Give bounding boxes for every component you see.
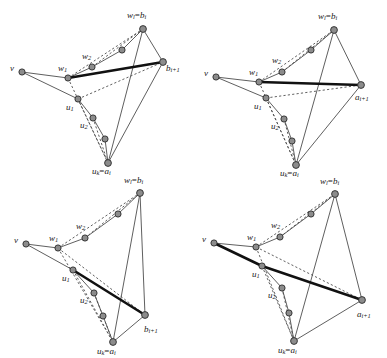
label-uk: uk=ai [97, 347, 116, 356]
label-u1: u1 [252, 270, 260, 279]
label-w2: w2 [272, 56, 281, 65]
label-v: v [10, 64, 14, 73]
edge-u2-u3 [94, 293, 103, 316]
panel-top-left: v w1 w2 wl=bi u1 u2 uk=ai bi+1 [0, 0, 193, 179]
node-u3 [289, 138, 295, 144]
node-apex [358, 82, 365, 89]
label-w1: w1 [49, 234, 58, 243]
node-u3 [102, 136, 108, 142]
label-u1: u1 [254, 102, 262, 111]
node-v [19, 69, 25, 75]
edge-dashed-w2-wl [85, 193, 140, 238]
label-w2: w2 [271, 221, 280, 230]
edge-dashed-u1-uk [73, 270, 113, 342]
edge-wl-apex [334, 30, 361, 85]
label-u2: u2 [271, 122, 279, 131]
label-uk: uk=ai [92, 167, 111, 176]
edge-apex-uk [108, 62, 163, 163]
label-wl: wl=bi [318, 12, 337, 21]
label-v: v [202, 235, 206, 244]
node-u3 [286, 310, 292, 316]
node-wl [331, 27, 338, 34]
edge-wl-apex [143, 29, 163, 62]
edge-highlight [259, 82, 361, 85]
node-uk [291, 338, 298, 345]
label-wl: wl=bi [320, 177, 339, 186]
panel-top-right-graph [194, 0, 387, 179]
label-w2: w2 [82, 52, 91, 61]
label-w1: w1 [249, 68, 258, 77]
node-w1 [65, 75, 71, 81]
edge-dashed-w1-wl [58, 193, 140, 248]
edge-wl-apex [140, 193, 145, 315]
node-u2 [279, 285, 285, 291]
label-v: v [14, 236, 18, 245]
node-u1 [75, 96, 81, 102]
node-w2 [277, 234, 283, 240]
label-uk: uk=ai [278, 346, 297, 355]
panel-top-right: v w1 w2 wl=bi u1 u2 uk=ai ai+1 [194, 0, 387, 179]
label-u1: u1 [66, 103, 74, 112]
edge-dashed-w1-apex [58, 248, 145, 315]
label-u2: u2 [268, 291, 276, 300]
panel-top-left-graph [0, 0, 193, 179]
panel-bottom-right-graph [194, 180, 387, 358]
node-wl [137, 190, 144, 197]
figure-four-panel-graph: v w1 w2 wl=bi u1 u2 uk=ai bi+1 [0, 0, 387, 358]
node-w3 [119, 47, 125, 53]
edge-u1-u2 [266, 98, 284, 119]
node-v [211, 240, 217, 246]
edge-apex-uk [296, 85, 361, 165]
node-v [23, 241, 29, 247]
edge-w2-w3 [92, 50, 122, 67]
edge-u2-u3 [282, 288, 289, 313]
edge-dashed-w1-wl [256, 194, 335, 247]
node-v [213, 74, 219, 80]
node-wl [140, 26, 147, 33]
node-w2 [279, 69, 285, 75]
edge-highlight [73, 270, 145, 315]
edge-wl-uk [294, 194, 335, 341]
edge-wl-uk [108, 29, 143, 163]
label-u2: u2 [80, 121, 88, 130]
node-u2 [91, 290, 97, 296]
node-u1 [263, 95, 269, 101]
edge-highlight [68, 62, 163, 78]
node-wl [332, 191, 339, 198]
edge-u3-uk [103, 316, 113, 342]
node-w3 [308, 211, 314, 217]
node-w1 [253, 244, 259, 250]
panel-bottom-left: v w1 w2 wl=bi u1 u2 uk=ai bi+1 [0, 180, 193, 358]
label-uk: uk=ai [280, 169, 299, 178]
label-w1: w1 [58, 64, 67, 73]
node-uk [110, 339, 117, 346]
edge-dashed-w2-wl [92, 29, 143, 67]
edge-dashed-u1-uk [78, 99, 108, 163]
edge-dashed-u1-apex [266, 85, 361, 98]
label-wl: wl=bi [127, 11, 146, 20]
node-u2 [281, 116, 287, 122]
edge-v-w1 [26, 244, 58, 248]
label-v: v [204, 69, 208, 78]
label-apex: ai+1 [355, 93, 369, 102]
edge-v-u1 [26, 244, 73, 270]
node-u1 [70, 267, 76, 273]
label-apex: ai+1 [357, 310, 371, 319]
edge-dashed-w1-wl [259, 30, 334, 82]
edge-wl-apex [335, 194, 362, 300]
node-u3 [100, 313, 106, 319]
node-apex [359, 297, 366, 304]
panel-bottom-right: v w1 w2 wl=bi u1 u2 uk=ai ai+1 [194, 180, 387, 358]
label-u2: u2 [80, 296, 88, 305]
node-apex [142, 312, 149, 319]
edge-apex-uk [113, 315, 145, 342]
node-w3 [308, 47, 314, 53]
edge-dashed-w2-wl [280, 194, 335, 237]
node-u2 [90, 115, 96, 121]
label-w1: w1 [247, 233, 256, 242]
edge-w1-w2 [58, 238, 85, 248]
edge-apex-uk [294, 300, 362, 341]
label-wl: wl=bi [124, 176, 143, 185]
edge-highlight [214, 243, 362, 300]
label-w2: w2 [76, 222, 85, 231]
